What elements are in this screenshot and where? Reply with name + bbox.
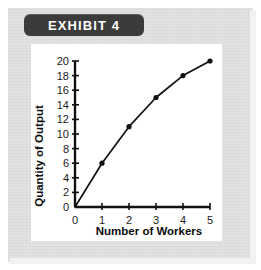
y-tick-label: 0 [63,201,69,213]
data-point [126,124,131,129]
data-point [99,161,104,166]
data-series-line [75,61,210,207]
data-point [207,58,212,63]
x-axis-title: Number of Workers [96,225,203,237]
y-tick-label: 14 [57,99,69,111]
y-tick-label: 2 [63,186,69,198]
y-tick-label: 18 [57,70,69,82]
paper-edge-right [250,10,256,264]
y-tick-label: 4 [63,172,69,184]
production-function-chart: Quantity of Output 02468101214161820 012… [31,44,222,241]
data-series-markers [99,58,212,165]
y-tick-label: 8 [63,143,69,155]
paper-edge-bottom [10,258,256,264]
y-tick-label: 6 [63,157,69,169]
y-tick-label: 10 [57,128,69,140]
y-axis-tick-labels: 02468101214161820 [57,55,69,213]
exhibit-banner: EXHIBIT 4 [24,14,144,36]
data-point [153,95,158,100]
y-tick-label: 12 [57,113,69,125]
y-tick-label: 16 [57,84,69,96]
y-tick-label: 20 [57,55,69,67]
x-tick-label: 5 [207,214,213,226]
exhibit-banner-label: EXHIBIT 4 [48,18,120,33]
x-tick-label: 0 [72,214,78,226]
data-point [180,73,185,78]
y-axis-title: Quantity of Output [33,105,45,207]
exhibit-figure: EXHIBIT 4 Quantity of Output 02468101214… [0,0,261,270]
chart-panel: Quantity of Output 02468101214161820 012… [31,44,222,241]
